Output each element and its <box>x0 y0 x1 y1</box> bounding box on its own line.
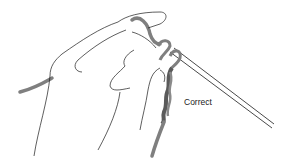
hand-hook-drawing <box>0 0 282 165</box>
crochet-hook <box>170 48 274 128</box>
hand-outline <box>34 12 166 156</box>
yarn-loop-1 <box>158 41 170 60</box>
yarn-strand-left <box>20 78 52 92</box>
crochet-illustration: Correct <box>0 0 282 165</box>
yarn-over-finger <box>132 18 160 44</box>
yarn-loop-2 <box>170 51 180 70</box>
correct-label: Correct <box>184 97 212 107</box>
yarn-tail <box>152 122 164 156</box>
